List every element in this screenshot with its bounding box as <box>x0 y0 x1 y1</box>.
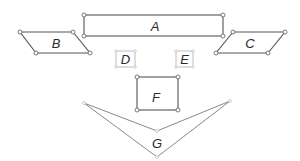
label-a: A <box>150 19 160 34</box>
label-g: G <box>152 136 162 151</box>
shape-a: A <box>82 13 225 38</box>
label-f: F <box>152 90 161 105</box>
shape-c: C <box>214 30 287 55</box>
label-e: E <box>180 52 189 67</box>
shape-e: E <box>175 50 195 69</box>
label-c: C <box>245 36 255 51</box>
label-b: B <box>52 36 61 51</box>
shape-f: F <box>135 75 180 112</box>
label-d: D <box>121 52 130 67</box>
shape-b: B <box>18 30 92 55</box>
shape-g: G <box>83 100 232 159</box>
shapes-diagram: A B C D E <box>0 0 300 161</box>
shape-d: D <box>115 50 137 69</box>
